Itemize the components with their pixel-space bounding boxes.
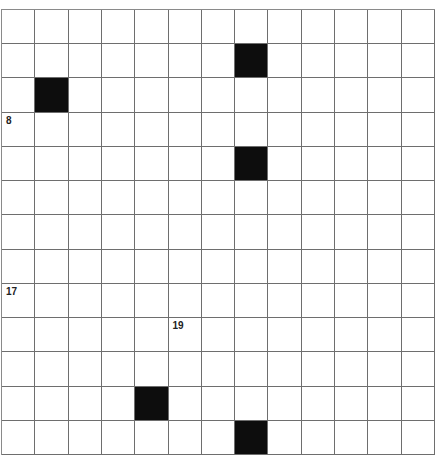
grid-cell[interactable]: [169, 250, 202, 284]
grid-cell[interactable]: [235, 284, 268, 318]
grid-cell[interactable]: [335, 181, 368, 215]
grid-cell[interactable]: [202, 250, 235, 284]
grid-cell[interactable]: [335, 284, 368, 318]
grid-cell[interactable]: [35, 250, 68, 284]
grid-cell[interactable]: [368, 44, 401, 78]
grid-cell[interactable]: [402, 113, 435, 147]
grid-cell[interactable]: [69, 421, 102, 455]
grid-cell[interactable]: [2, 250, 35, 284]
grid-cell[interactable]: 19: [169, 318, 202, 352]
grid-cell[interactable]: [102, 181, 135, 215]
grid-cell[interactable]: [69, 181, 102, 215]
grid-cell[interactable]: [268, 284, 301, 318]
grid-cell[interactable]: [235, 250, 268, 284]
grid-cell[interactable]: [368, 215, 401, 249]
grid-cell[interactable]: [2, 421, 35, 455]
grid-cell[interactable]: [335, 10, 368, 44]
grid-cell[interactable]: [268, 318, 301, 352]
grid-cell[interactable]: [335, 78, 368, 112]
grid-cell[interactable]: [268, 44, 301, 78]
grid-cell[interactable]: [202, 78, 235, 112]
grid-cell[interactable]: [135, 147, 168, 181]
grid-cell[interactable]: [35, 318, 68, 352]
grid-cell[interactable]: [268, 10, 301, 44]
grid-cell[interactable]: [35, 284, 68, 318]
grid-cell[interactable]: [335, 215, 368, 249]
grid-cell[interactable]: [402, 44, 435, 78]
grid-cell[interactable]: [402, 215, 435, 249]
grid-cell[interactable]: [35, 44, 68, 78]
grid-cell[interactable]: [335, 318, 368, 352]
grid-cell[interactable]: [102, 10, 135, 44]
grid-cell[interactable]: [135, 215, 168, 249]
grid-cell[interactable]: [202, 147, 235, 181]
grid-cell[interactable]: [402, 387, 435, 421]
grid-cell[interactable]: [235, 318, 268, 352]
grid-cell[interactable]: [135, 113, 168, 147]
grid-cell[interactable]: [368, 352, 401, 386]
grid-cell[interactable]: [102, 250, 135, 284]
grid-cell[interactable]: [235, 181, 268, 215]
grid-cell[interactable]: [169, 284, 202, 318]
grid-cell[interactable]: [35, 147, 68, 181]
grid-cell[interactable]: [69, 10, 102, 44]
grid-cell[interactable]: [235, 78, 268, 112]
grid-cell[interactable]: [169, 78, 202, 112]
grid-cell[interactable]: [368, 318, 401, 352]
grid-cell[interactable]: [2, 387, 35, 421]
grid-cell[interactable]: [235, 387, 268, 421]
grid-cell[interactable]: [69, 352, 102, 386]
grid-cell[interactable]: [169, 215, 202, 249]
grid-cell[interactable]: [335, 387, 368, 421]
grid-cell[interactable]: [368, 284, 401, 318]
grid-cell[interactable]: [169, 421, 202, 455]
grid-cell[interactable]: [402, 421, 435, 455]
grid-cell[interactable]: [169, 181, 202, 215]
grid-cell[interactable]: [335, 250, 368, 284]
grid-cell[interactable]: [202, 318, 235, 352]
grid-cell[interactable]: [102, 147, 135, 181]
grid-cell[interactable]: [102, 387, 135, 421]
grid-cell[interactable]: [302, 44, 335, 78]
grid-cell[interactable]: [368, 250, 401, 284]
grid-cell[interactable]: [302, 78, 335, 112]
grid-cell[interactable]: [102, 421, 135, 455]
grid-cell[interactable]: [368, 113, 401, 147]
grid-cell[interactable]: [135, 352, 168, 386]
grid-cell[interactable]: [302, 318, 335, 352]
grid-cell[interactable]: [202, 215, 235, 249]
grid-cell[interactable]: [268, 421, 301, 455]
grid-cell[interactable]: [2, 10, 35, 44]
grid-cell[interactable]: [202, 10, 235, 44]
grid-cell[interactable]: [335, 44, 368, 78]
grid-cell[interactable]: [35, 387, 68, 421]
grid-cell[interactable]: [302, 215, 335, 249]
grid-cell[interactable]: [2, 318, 35, 352]
grid-cell[interactable]: [402, 284, 435, 318]
grid-cell[interactable]: [2, 147, 35, 181]
grid-cell[interactable]: [202, 181, 235, 215]
grid-cell[interactable]: [102, 318, 135, 352]
grid-cell[interactable]: [135, 78, 168, 112]
grid-cell[interactable]: [268, 215, 301, 249]
grid-cell[interactable]: [169, 113, 202, 147]
grid-cell[interactable]: [2, 215, 35, 249]
grid-cell[interactable]: [69, 215, 102, 249]
grid-cell[interactable]: [135, 44, 168, 78]
grid-cell[interactable]: [69, 147, 102, 181]
grid-cell[interactable]: [169, 387, 202, 421]
grid-cell[interactable]: [368, 78, 401, 112]
grid-cell[interactable]: [69, 387, 102, 421]
grid-cell[interactable]: [268, 352, 301, 386]
grid-cell[interactable]: [302, 147, 335, 181]
grid-cell[interactable]: [169, 10, 202, 44]
grid-cell[interactable]: [202, 352, 235, 386]
grid-cell[interactable]: [235, 352, 268, 386]
grid-cell[interactable]: [235, 10, 268, 44]
grid-cell[interactable]: [402, 352, 435, 386]
grid-cell[interactable]: [69, 284, 102, 318]
grid-cell[interactable]: [368, 181, 401, 215]
grid-cell[interactable]: [368, 387, 401, 421]
grid-cell[interactable]: [202, 44, 235, 78]
grid-cell[interactable]: [69, 250, 102, 284]
